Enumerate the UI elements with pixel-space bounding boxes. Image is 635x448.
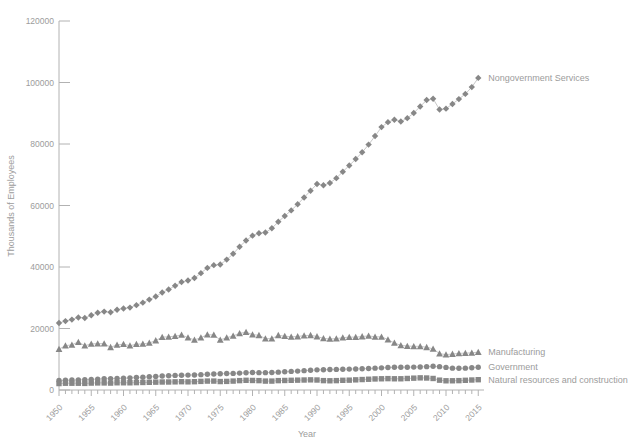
square-marker (269, 378, 274, 383)
circle-marker (127, 375, 132, 380)
circle-marker (359, 366, 364, 371)
circle-marker (424, 364, 429, 369)
triangle-marker (230, 332, 237, 338)
chart-container: 0200004000060000800001000001200001950195… (0, 0, 635, 448)
circle-marker (205, 372, 210, 377)
square-marker (243, 378, 248, 383)
square-marker (398, 376, 403, 381)
circle-marker (289, 369, 294, 374)
y-tick-label: 0 (49, 385, 54, 395)
square-marker (372, 376, 377, 381)
series-nongovernment-services-markers (56, 75, 482, 326)
x-tick-label: 1960 (108, 402, 129, 423)
diamond-marker (391, 117, 397, 123)
square-marker (282, 378, 287, 383)
diamond-marker (107, 309, 113, 315)
circle-marker (476, 365, 481, 370)
circle-marker (147, 374, 152, 379)
square-marker (256, 378, 261, 383)
square-marker (289, 378, 294, 383)
triangle-marker (75, 339, 82, 345)
series-label-government: Government (488, 362, 538, 372)
square-marker (198, 379, 203, 384)
diamond-marker (56, 320, 62, 326)
square-marker (147, 380, 152, 385)
series-label-nongovernment-services: Nongovernment Services (488, 73, 590, 83)
square-marker (95, 380, 100, 385)
diamond-marker (436, 106, 442, 112)
diamond-marker (62, 318, 68, 324)
circle-marker (469, 365, 474, 370)
diamond-marker (146, 296, 152, 302)
diamond-marker (398, 118, 404, 124)
square-marker (327, 378, 332, 383)
circle-marker (450, 365, 455, 370)
square-marker (56, 381, 61, 386)
square-marker (166, 379, 171, 384)
x-tick-label: 2010 (431, 402, 452, 423)
circle-marker (218, 371, 223, 376)
series-label-manufacturing: Manufacturing (488, 347, 545, 357)
x-tick-label: 2015 (463, 402, 484, 423)
diamond-marker (75, 314, 81, 320)
circle-marker (134, 375, 139, 380)
circle-marker (192, 372, 197, 377)
diamond-marker (95, 310, 101, 316)
circle-marker (269, 370, 274, 375)
chart-svg: 0200004000060000800001000001200001950195… (0, 0, 635, 448)
circle-marker (430, 364, 435, 369)
square-marker (379, 376, 384, 381)
square-marker (295, 377, 300, 382)
square-marker (108, 380, 113, 385)
axes-layer: 0200004000060000800001000001200001950195… (26, 16, 484, 423)
square-marker (205, 378, 210, 383)
diamond-marker (159, 289, 165, 295)
circle-marker (295, 368, 300, 373)
diamond-marker (153, 293, 159, 299)
square-marker (140, 380, 145, 385)
y-tick-label: 20000 (30, 324, 54, 334)
square-marker (437, 377, 442, 382)
square-marker (153, 379, 158, 384)
circle-marker (321, 367, 326, 372)
circle-marker (405, 365, 410, 370)
square-marker (321, 378, 326, 383)
diamond-marker (211, 262, 217, 268)
triangle-marker (56, 346, 63, 352)
diamond-marker (430, 96, 436, 102)
x-tick-label: 2000 (366, 402, 387, 423)
circle-marker (179, 373, 184, 378)
diamond-marker (262, 229, 268, 235)
x-tick-label: 1955 (76, 402, 97, 423)
circle-marker (366, 366, 371, 371)
square-marker (237, 378, 242, 383)
diamond-marker (256, 230, 262, 236)
square-marker (430, 376, 435, 381)
square-marker (463, 378, 468, 383)
triangle-marker (69, 341, 76, 347)
circle-marker (211, 371, 216, 376)
square-marker (160, 379, 165, 384)
square-marker (359, 377, 364, 382)
diamond-marker (69, 316, 75, 322)
x-tick-label: 1985 (270, 402, 291, 423)
triangle-marker (152, 337, 159, 343)
circle-marker (418, 364, 423, 369)
square-marker (76, 381, 81, 386)
x-tick-label: 1980 (237, 402, 258, 423)
square-marker (127, 380, 132, 385)
circle-marker (372, 365, 377, 370)
square-marker (314, 377, 319, 382)
square-marker (211, 378, 216, 383)
diamond-marker (120, 305, 126, 311)
x-tick-label: 1990 (302, 402, 323, 423)
square-marker (224, 379, 229, 384)
circle-marker (237, 370, 242, 375)
square-marker (69, 381, 74, 386)
square-marker (114, 380, 119, 385)
circle-marker (282, 369, 287, 374)
circle-marker (437, 364, 442, 369)
y-tick-label: 60000 (30, 201, 54, 211)
square-marker (301, 377, 306, 382)
triangle-marker (198, 334, 205, 340)
